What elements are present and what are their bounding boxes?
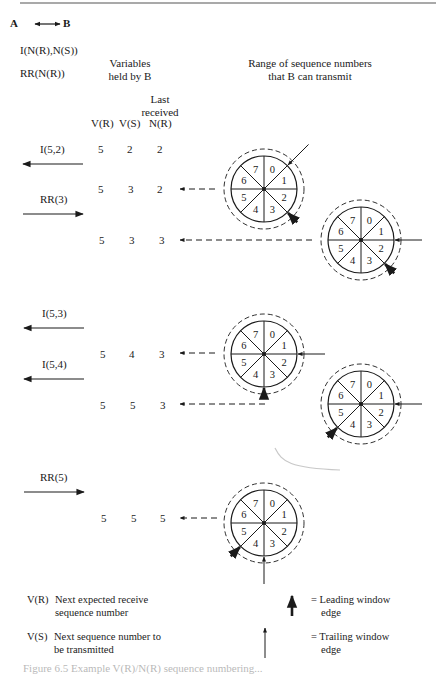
cell-vr: 5: [98, 143, 104, 156]
sector-number: 6: [338, 226, 343, 237]
frame-label: I(5,4): [42, 358, 67, 371]
key-trailing-line2: edge: [321, 643, 341, 656]
sector-number: 0: [270, 329, 275, 340]
sector-number: 4: [253, 538, 259, 549]
key-leading-line2: edge: [321, 606, 341, 619]
cell-vs: 2: [127, 143, 133, 156]
wheel-hub: [359, 402, 363, 406]
frame-label: I(5,3): [42, 307, 67, 320]
range-header-line1: Range of sequence numbers: [244, 57, 376, 70]
sector-number: 3: [270, 369, 275, 380]
b-label: B: [63, 17, 70, 30]
trailing-edge-arrow: [231, 547, 240, 556]
cell-vs: 5: [130, 399, 136, 412]
sector-number: 7: [350, 215, 355, 226]
sector-number: 3: [367, 255, 372, 266]
last-header-line1: Last: [138, 93, 182, 106]
cell-nr: 2: [157, 143, 163, 156]
wheel-hub: [262, 352, 266, 356]
col-header-vs: V(S): [119, 117, 140, 130]
key-vr-def1: Next expected receive: [55, 593, 148, 606]
key-vr-def2: sequence number: [55, 606, 128, 619]
trailing-edge-arrow: [288, 213, 297, 222]
cell-vs: 5: [131, 512, 137, 525]
sector-number: 1: [281, 175, 286, 186]
a-label: A: [10, 17, 18, 30]
key-vs-def1: Next sequence number to: [54, 630, 161, 643]
sector-number: 1: [281, 509, 286, 520]
sector-number: 7: [253, 498, 258, 509]
sector-number: 4: [350, 419, 356, 430]
wheel-hub: [262, 187, 266, 191]
trailing-edge-arrow: [328, 428, 337, 437]
sector-number: 5: [338, 407, 343, 418]
frame-label: RR(5): [40, 471, 68, 484]
frame-rr-format: RR(N(R)): [20, 67, 65, 80]
sector-number: 0: [270, 164, 275, 175]
sector-number: 3: [367, 419, 372, 430]
trailing-edge-arrow: [385, 264, 394, 273]
sector-number: 4: [253, 369, 259, 380]
cell-vs: 3: [129, 234, 135, 247]
sector-number: 7: [253, 164, 258, 175]
sector-number: 0: [270, 498, 275, 509]
key-trailing-line1: = Trailing window: [311, 630, 389, 643]
col-header-vr: V(R): [91, 117, 114, 130]
range-header-line2: that B can transmit: [244, 70, 376, 83]
sequence-wheel: 01234567: [321, 364, 422, 444]
cell-nr: 3: [160, 399, 166, 412]
sector-number: 2: [378, 243, 383, 254]
variables-header-line1: Variables: [100, 57, 160, 70]
sector-number: 2: [281, 526, 286, 537]
sequence-wheel: 01234567: [321, 200, 422, 280]
sector-number: 2: [281, 192, 286, 203]
sector-number: 4: [350, 255, 356, 266]
sector-number: 7: [253, 329, 258, 340]
sector-number: 5: [241, 357, 246, 368]
variables-header-line2: held by B: [100, 70, 160, 83]
sector-number: 1: [378, 390, 383, 401]
window-wheels: 0123456701234567012345670123456701234567: [224, 144, 422, 584]
frame-label: I(5,2): [40, 143, 65, 156]
cell-vs: 3: [128, 183, 134, 196]
key-vr-term: V(R): [27, 593, 49, 606]
sector-number: 7: [350, 379, 355, 390]
cell-vs: 4: [129, 348, 135, 361]
sector-number: 0: [367, 379, 372, 390]
cell-nr: 3: [159, 234, 165, 247]
sequence-wheel: 01234567: [224, 314, 325, 399]
cell-nr: 3: [159, 348, 165, 361]
sector-number: 6: [241, 175, 246, 186]
cell-vr: 5: [101, 512, 107, 525]
sector-number: 5: [241, 526, 246, 537]
sector-number: 3: [270, 538, 275, 549]
frame-i-format: I(N(R),N(S)): [20, 44, 78, 57]
cell-vr: 5: [100, 399, 106, 412]
sector-number: 1: [378, 226, 383, 237]
leading-edge-arrow: [288, 144, 309, 165]
diagram-graphics: 0123456701234567012345670123456701234567: [0, 0, 436, 674]
frame-label: RR(3): [40, 193, 68, 206]
cell-vr: 5: [98, 183, 104, 196]
sector-number: 6: [241, 509, 246, 520]
sequence-wheel: 01234567: [224, 144, 309, 229]
key-leading-line1: = Leading window: [311, 593, 390, 606]
sector-number: 0: [367, 215, 372, 226]
pencil-mark: [275, 448, 340, 470]
sector-number: 3: [270, 204, 275, 215]
cell-nr: 2: [157, 183, 163, 196]
cell-vr: 5: [99, 234, 105, 247]
sector-number: 1: [281, 340, 286, 351]
wheel-hub: [262, 521, 266, 525]
figure-caption: Figure 6.5 Example V(R)/N(R) sequence nu…: [23, 662, 263, 674]
sector-number: 5: [241, 192, 246, 203]
cell-vr: 5: [100, 348, 106, 361]
sector-number: 5: [338, 243, 343, 254]
last-received-header: Last received: [138, 93, 182, 119]
sector-number: 2: [281, 357, 286, 368]
sector-number: 4: [253, 204, 259, 215]
cell-nr: 5: [160, 512, 166, 525]
col-header-nr: N(R): [149, 117, 172, 130]
sequence-wheel: 01234567: [224, 483, 304, 584]
key-vs-term: V(S): [27, 630, 47, 643]
